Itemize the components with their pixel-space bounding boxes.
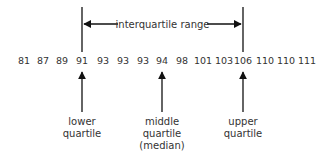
marker-label-2-0: upper [228, 116, 258, 127]
value-5: 93 [117, 55, 129, 66]
marker-label-1-1: quartile [143, 128, 182, 139]
value-1: 87 [37, 55, 49, 66]
value-9: 101 [194, 55, 212, 66]
values-row: 818789919393939498101103106110110111 [18, 55, 316, 66]
value-7: 94 [156, 55, 168, 66]
value-6: 93 [137, 55, 149, 66]
marker-label-1-2: (median) [139, 140, 184, 151]
marker-label-0-1: quartile [63, 128, 102, 139]
value-2: 89 [56, 55, 68, 66]
value-3: 91 [76, 55, 88, 66]
value-13: 110 [277, 55, 295, 66]
quartile-diagram: interquartile range 81878991939393949810… [0, 0, 334, 159]
quartile-markers: lowerquartilemiddlequartile(median)upper… [63, 72, 263, 151]
range-label: interquartile range [116, 19, 210, 30]
marker-label-1-0: middle [145, 116, 179, 127]
value-11: 106 [234, 55, 252, 66]
value-0: 81 [18, 55, 30, 66]
value-12: 110 [256, 55, 274, 66]
value-8: 98 [176, 55, 188, 66]
marker-label-0-0: lower [68, 116, 96, 127]
marker-label-2-1: quartile [224, 128, 263, 139]
value-14: 111 [298, 55, 316, 66]
value-4: 93 [97, 55, 109, 66]
value-10: 103 [215, 55, 233, 66]
